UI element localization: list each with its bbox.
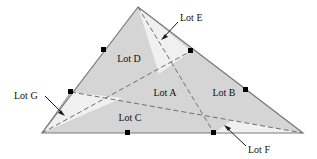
lot-e-label: Lot E xyxy=(180,12,203,23)
left-lower-point xyxy=(68,89,73,94)
lot-c-label: Lot C xyxy=(118,112,141,123)
right-upper-point xyxy=(188,48,193,53)
left-upper-point xyxy=(101,47,106,52)
lot-a-label: Lot A xyxy=(153,87,177,98)
right-lower-point xyxy=(243,87,248,92)
lot-d-label: Lot D xyxy=(117,53,141,64)
bottom-right-point xyxy=(211,130,216,135)
lots-diagram: Lot D Lot A Lot B Lot C Lot E Lot G Lot … xyxy=(0,0,317,159)
bottom-left-point xyxy=(125,130,130,135)
lot-g-label: Lot G xyxy=(14,90,38,101)
lot-b-label: Lot B xyxy=(212,87,235,98)
lot-f-label: Lot F xyxy=(248,144,270,155)
